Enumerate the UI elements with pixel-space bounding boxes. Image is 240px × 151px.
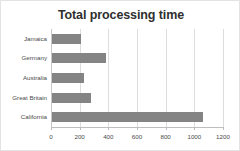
chart-container: Total processing time JamaicaGermanyAust…	[0, 0, 240, 151]
category-axis-labels: JamaicaGermanyAustraliaGreat BritainCali…	[1, 29, 47, 127]
bar	[52, 34, 81, 44]
tick-label: 0	[49, 133, 52, 140]
tick-label: 1000	[187, 133, 201, 140]
category-label: Germany	[3, 54, 47, 61]
bar	[52, 93, 91, 103]
category-label: Australia	[3, 74, 47, 81]
bar	[52, 53, 106, 63]
axis-tick	[223, 127, 224, 130]
chart-title: Total processing time	[1, 8, 240, 22]
plot-area	[51, 29, 223, 127]
category-label: California	[3, 113, 47, 120]
bar	[52, 112, 203, 122]
category-label: Great Britain	[3, 94, 47, 101]
value-axis-tick-labels: 020040060080010001200	[51, 128, 223, 144]
tick-label: 600	[132, 133, 142, 140]
bar	[52, 73, 84, 83]
tick-label: 800	[160, 133, 170, 140]
gridline	[223, 29, 224, 127]
tick-label: 200	[74, 133, 84, 140]
tick-label: 400	[103, 133, 113, 140]
category-label: Jamaica	[3, 35, 47, 42]
tick-label: 1200	[216, 133, 230, 140]
